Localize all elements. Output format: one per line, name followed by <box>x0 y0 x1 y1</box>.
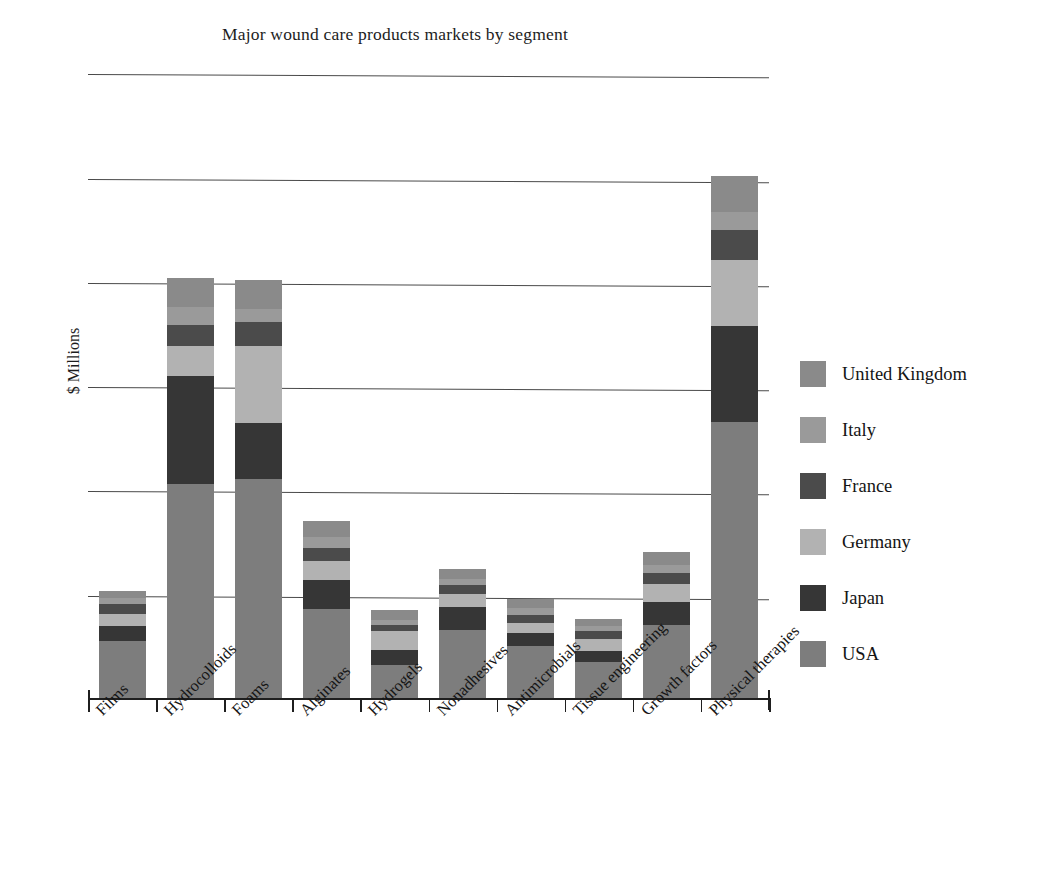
legend-label: France <box>842 476 892 497</box>
legend-item-japan[interactable]: Japan <box>800 570 1030 626</box>
legend-item-united-kingdom[interactable]: United Kingdom <box>800 346 1030 402</box>
legend-item-italy[interactable]: Italy <box>800 402 1030 458</box>
legend-label: United Kingdom <box>842 364 967 385</box>
legend-label: USA <box>842 644 879 665</box>
x-axis-label-films: Films <box>92 679 133 720</box>
legend-item-france[interactable]: France <box>800 458 1030 514</box>
legend-swatch-icon <box>800 361 826 387</box>
x-axis-label-alginates: Alginates <box>296 661 355 720</box>
x-axis-label-nonadhesives: Nonadhesives <box>433 641 513 721</box>
legend-item-usa[interactable]: USA <box>800 626 1030 682</box>
legend-label: Italy <box>842 420 876 441</box>
x-axis-label-hydrocolloids: Hydrocolloids <box>160 639 241 720</box>
legend-swatch-icon <box>800 585 826 611</box>
legend-swatch-icon <box>800 417 826 443</box>
x-axis-label-hydrogels: Hydrogels <box>364 657 427 720</box>
legend-swatch-icon <box>800 529 826 555</box>
legend-label: Germany <box>842 532 911 553</box>
x-axis-label-foams: Foams <box>228 675 273 720</box>
legend-item-germany[interactable]: Germany <box>800 514 1030 570</box>
x-axis-label-physical-therapies: Physical therapies <box>705 621 804 720</box>
legend-swatch-icon <box>800 641 826 667</box>
legend-label: Japan <box>842 588 884 609</box>
legend-swatch-icon <box>800 473 826 499</box>
chart-container: Major wound care products markets by seg… <box>0 0 1040 883</box>
chart-legend: United KingdomItalyFranceGermanyJapanUSA <box>800 346 1030 682</box>
